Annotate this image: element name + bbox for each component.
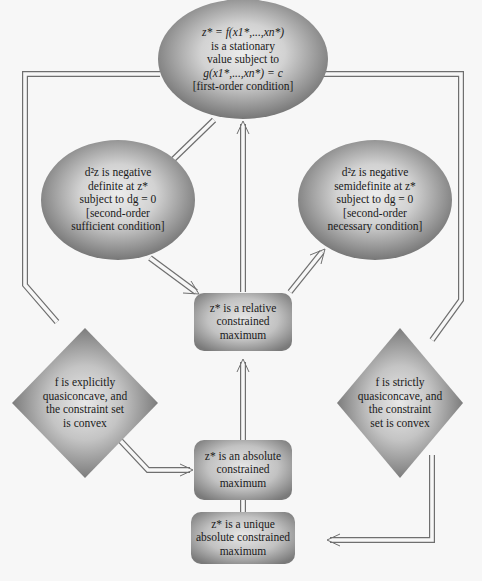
edge-explicit-absolute [118,438,193,476]
flowchart-canvas [0,0,482,581]
edge-relative-stationary [237,121,249,292]
node-absolute-shape [194,440,292,500]
edge-absolute-relative [237,359,249,440]
edge-strict-unique [327,455,432,546]
node-stationary-shape [158,0,328,119]
node-strict-shape [337,328,463,478]
nodes [12,0,463,564]
node-unique-shape [191,512,295,564]
node-relative-shape [194,293,292,351]
node-necessary-shape [298,140,452,260]
node-sufficient-shape [41,140,195,260]
edge-relative-necessary [290,249,325,292]
edge-sufficient-relative [150,258,199,294]
